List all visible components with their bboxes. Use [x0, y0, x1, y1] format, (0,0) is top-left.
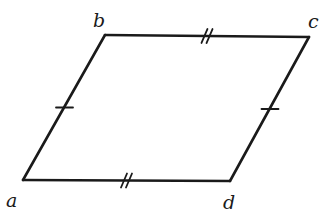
vertex-label-a: a — [6, 189, 17, 211]
tick-marks — [56, 29, 279, 188]
edge-bc — [105, 35, 309, 37]
vertex-label-d: d — [223, 191, 235, 213]
parallelogram-diagram: a b c d — [0, 0, 334, 216]
edge-da — [23, 180, 230, 181]
vertex-labels: a b c d — [6, 9, 319, 213]
vertex-label-c: c — [308, 10, 319, 32]
vertex-label-b: b — [93, 9, 105, 31]
